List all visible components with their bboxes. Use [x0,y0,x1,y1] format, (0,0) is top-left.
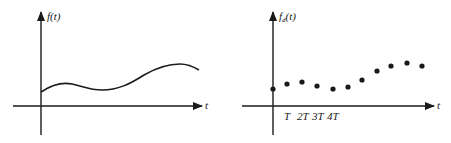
tick-label-3T: 3T [312,110,324,122]
continuous-signal-curve [41,64,199,92]
sample-dot [404,60,409,65]
sample-dot [374,68,379,73]
right-x-axis-label: t [437,99,440,111]
sample-dot [330,86,335,91]
left-x-axis-label: t [205,99,208,111]
left-plot [13,12,202,135]
sample-dot [388,63,393,68]
right-y-label-arg: (t) [286,10,296,22]
sample-dot [314,83,319,88]
tick-label-T: T [284,110,290,122]
sample-dot [419,63,424,68]
sample-dot [284,81,289,86]
sample-points [270,60,424,91]
sample-dot [270,86,275,91]
sample-dot [345,84,350,89]
left-y-axis-label: f(t) [47,10,60,22]
sample-dot [359,77,364,82]
right-y-axis-label: fd(t) [279,10,296,24]
diagram-canvas [0,0,451,143]
tick-label-2T: 2T [297,110,309,122]
sample-dot [299,79,304,84]
tick-label-4T: 4T [327,110,339,122]
